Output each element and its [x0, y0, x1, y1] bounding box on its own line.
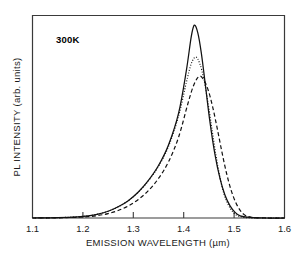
spectrum-curve-sample-2	[33, 57, 285, 218]
spectrum-curve-sample-1	[33, 25, 285, 218]
x-tick-label: 1.1	[26, 223, 39, 234]
figure-pl-spectra: 1.11.21.31.41.51.6 EMISSION WAVELENGTH (…	[0, 0, 305, 261]
annotation-temperature: 300K	[56, 34, 80, 45]
x-tick-label: 1.3	[127, 223, 140, 234]
x-tick-label: 1.6	[278, 223, 291, 234]
x-axis-label: EMISSION WAVELENGTH (µm)	[86, 237, 230, 248]
spectra-curves	[33, 25, 285, 218]
x-tick-label: 1.2	[76, 223, 89, 234]
plot-frame	[33, 15, 286, 218]
y-axis-label: PL INTENSITY (arb. units)	[11, 58, 22, 177]
pl-spectra-chart: 1.11.21.31.41.51.6 EMISSION WAVELENGTH (…	[0, 0, 305, 261]
x-tick-label: 1.4	[177, 223, 190, 234]
x-axis-tick-labels: 1.11.21.31.41.51.6	[26, 223, 291, 234]
spectrum-curve-sample-3	[33, 76, 285, 218]
x-tick-label: 1.5	[227, 223, 240, 234]
x-axis-ticks	[83, 212, 234, 218]
